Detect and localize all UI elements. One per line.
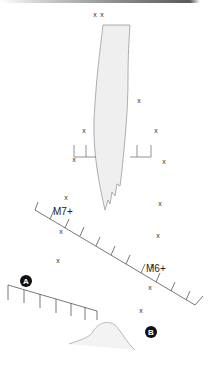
x-marker: x: [137, 97, 141, 104]
hatched-fault-line-main: [35, 202, 203, 305]
x-marker: x: [162, 158, 166, 165]
label-m6: M6+: [146, 263, 166, 274]
badge-b-text: B: [148, 328, 154, 337]
badge-b: B: [145, 326, 157, 338]
badge-a-text: A: [23, 277, 29, 286]
x-marker: x: [158, 200, 162, 207]
mound-shape: [69, 322, 135, 350]
x-marker: x: [139, 307, 143, 314]
plume-shape: [94, 25, 130, 210]
x-marker: x: [82, 127, 86, 134]
label-m7: M7+: [53, 206, 73, 217]
x-marker: x: [156, 232, 160, 239]
diagram-canvas: xxxxxxxxxxxxxxx M7+ M6+ A B: [0, 0, 210, 372]
x-marker: x: [56, 257, 60, 264]
x-marker: x: [100, 11, 104, 18]
badge-a: A: [20, 275, 32, 287]
x-marker: x: [154, 127, 158, 134]
x-marker: x: [93, 11, 97, 18]
hatched-fault-line-lower: [8, 285, 97, 320]
x-marker: x: [72, 156, 76, 163]
x-marker: x: [59, 228, 63, 235]
x-marker: x: [148, 284, 152, 291]
x-marker: x: [64, 194, 68, 201]
